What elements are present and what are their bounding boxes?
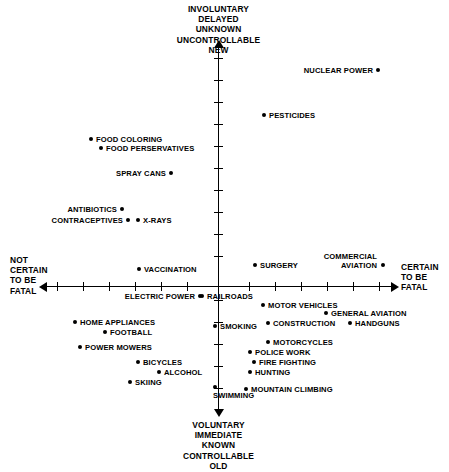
data-point [126,218,131,223]
data-point-label: ANTIBIOTICS [67,205,117,214]
y-axis-tick [214,58,223,59]
data-point-label: RAILROADS [207,292,253,301]
data-point-label: SWIMMING [213,391,254,400]
data-point-label: SKIING [135,378,162,387]
y-axis-tick [214,168,223,169]
data-point-label: FOOD COLORING [96,135,162,144]
data-point [136,360,141,365]
y-axis-tick [214,146,223,147]
x-axis-tick [327,282,328,291]
axis-caption-top: INVOLUNTARY DELAYED UNKNOWN UNCONTROLLAB… [0,4,437,55]
data-point [157,370,162,375]
x-axis-tick [353,282,354,291]
data-point-label: VACCINATION [144,265,197,274]
data-point-label: POLICE WORK [255,348,311,357]
y-axis-tick [214,256,223,257]
axis-caption-bottom: VOLUNTARY IMMEDIATE KNOWN CONTROLLABLE O… [0,420,437,471]
data-point-label: HANDGUNS [355,319,400,328]
data-point [324,311,329,316]
x-axis-tick [275,282,276,291]
data-point [266,321,271,326]
data-point [103,330,108,335]
data-point [381,263,386,268]
x-axis-tick [83,282,84,291]
data-point-label: SURGERY [260,261,298,270]
data-point-label: POWER MOWERS [85,343,152,352]
data-point-label: MOTORCYCLES [273,338,333,347]
data-point-label: BICYCLES [143,358,182,367]
data-point-label: CONTRACEPTIVES [52,216,123,225]
data-point [248,350,253,355]
data-point-label: FIRE FIGHTING [259,358,316,367]
data-point [376,68,381,73]
data-point-label: FOOTBALL [110,328,152,337]
axis-arrow-right-icon [391,282,399,292]
data-point [78,345,83,350]
data-point-label: FOOD PERSERVATIVES [106,144,194,153]
axis-caption-right: CERTAIN TO BE FATAL [401,262,439,293]
x-axis-tick [161,282,162,291]
x-axis-tick [187,282,188,291]
data-point [266,340,271,345]
data-point-label: MOTOR VEHICLES [268,301,338,310]
data-point [120,207,125,212]
x-axis-tick [249,282,250,291]
data-point-label: CONSTRUCTION [273,319,335,328]
x-axis-tick [379,282,380,291]
data-point [200,294,205,299]
axis-arrow-down-icon [214,409,224,417]
data-point-label: GENERAL AVIATION [331,309,407,318]
data-point-label: COMMERCIAL AVIATION [324,252,377,270]
data-point-label: HOME APPLIANCES [80,318,155,327]
data-point-label: SMOKING [220,322,257,331]
y-axis-tick [214,102,223,103]
y-axis-tick [214,212,223,213]
data-point-label: ALCOHOL [164,368,202,377]
y-axis-tick [214,366,223,367]
data-point [136,218,141,223]
data-point [213,324,218,329]
x-axis-tick [57,282,58,291]
data-point [73,320,78,325]
data-point-label: HUNTING [255,368,290,377]
data-point-label: SPRAY CANS [116,169,166,178]
y-axis-tick [214,344,223,345]
data-point [261,303,266,308]
data-point [262,113,267,118]
data-point-label: PESTICIDES [269,111,315,120]
data-point-label: NUCLEAR POWER [304,66,373,75]
y-axis-tick [214,234,223,235]
data-point [252,360,257,365]
data-point [253,263,258,268]
data-point [99,146,104,151]
y-axis-tick [214,190,223,191]
data-point [348,321,353,326]
data-point-label: X-RAYS [143,216,172,225]
x-axis-tick [135,282,136,291]
data-point [169,171,174,176]
data-point [137,267,142,272]
data-point-label: ELECTRIC POWER [125,292,195,301]
data-point [89,137,94,142]
data-point [248,370,253,375]
risk-perception-scatter-plot: INVOLUNTARY DELAYED UNKNOWN UNCONTROLLAB… [0,0,449,472]
axis-caption-left: NOT CERTAIN TO BE FATAL [10,255,48,296]
data-point [128,380,133,385]
y-axis-tick [214,124,223,125]
data-point-label: MOUNTAIN CLIMBING [251,385,333,394]
x-axis-tick [301,282,302,291]
y-axis-tick [214,80,223,81]
x-axis-tick [109,282,110,291]
